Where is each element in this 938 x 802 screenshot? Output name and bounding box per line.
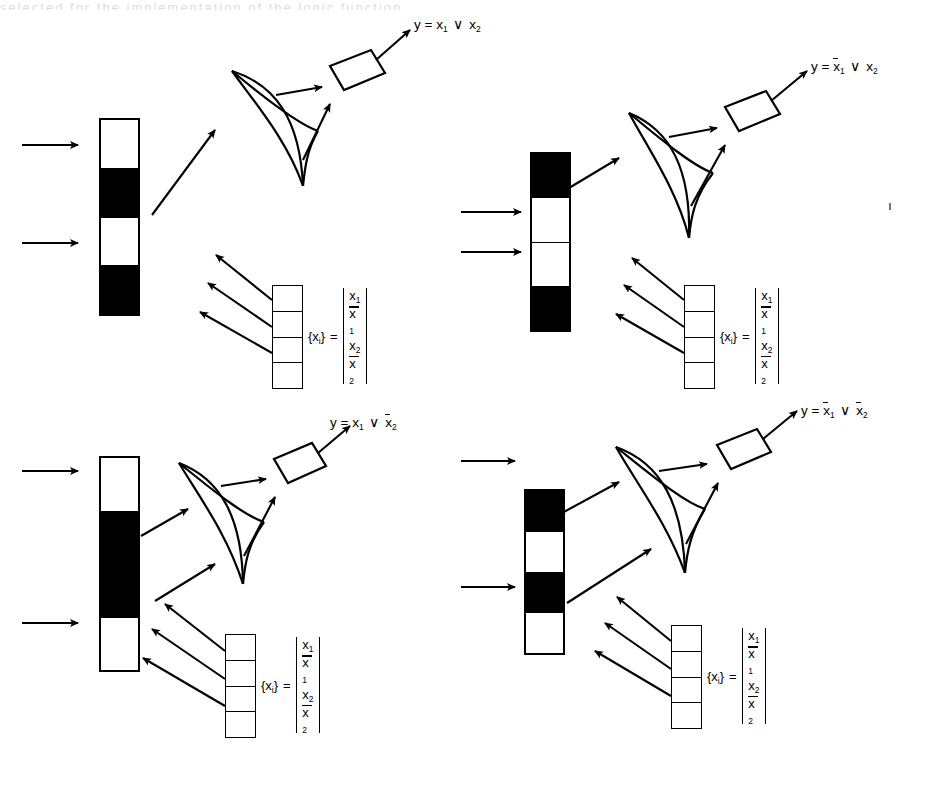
code-cell[interactable] [273, 362, 302, 388]
output-operand-2: x2 [856, 403, 867, 418]
panel-bottom-left: {xi} = x1x1x2x2 y = x1 ∨ x2 [0, 401, 469, 802]
vector-entry: x2 [761, 357, 772, 383]
vector-entries: x1x1x2x2 [344, 288, 365, 384]
legend-vector: x1x1x2x2 [755, 288, 779, 384]
register-to-lens-beam [569, 158, 619, 188]
code-cell[interactable] [226, 711, 255, 737]
input-beams [22, 471, 78, 623]
code-register[interactable] [671, 625, 702, 729]
output-operand-2: x2 [385, 415, 396, 430]
code-register[interactable] [272, 285, 303, 389]
register-cell[interactable] [532, 197, 569, 241]
vector-entry: x1 [761, 307, 772, 333]
legend-equation: {xi} = x1x1x2x2 [261, 637, 320, 733]
vector-entry: x2 [349, 339, 360, 352]
code-beams [616, 258, 684, 353]
output-equals: = [341, 415, 349, 430]
code-register[interactable] [684, 285, 715, 389]
code-register[interactable] [225, 634, 256, 738]
output-operand-1: x1 [436, 17, 447, 32]
code-beams [595, 597, 671, 696]
input-register[interactable] [524, 489, 565, 655]
figure-canvas: selected for the implementation of the l… [0, 0, 938, 802]
register-cell[interactable] [532, 242, 569, 286]
code-beams [200, 255, 272, 353]
output-prefix: y [414, 17, 421, 32]
register-cell[interactable] [526, 612, 563, 653]
legend-set-label: {xi} [720, 329, 737, 344]
register-cell[interactable] [101, 458, 138, 511]
panel-top-left: {xi} = x1x1x2x2 y = x1 ∨ x2 [0, 0, 469, 401]
register-cell[interactable] [101, 617, 138, 671]
code-cell[interactable] [273, 311, 302, 337]
code-cell[interactable] [685, 362, 714, 388]
vector-entry: x2 [748, 697, 759, 723]
output-operator: ∨ [451, 16, 465, 32]
vector-entries: x1x1x2x2 [743, 628, 764, 724]
input-register[interactable] [530, 152, 571, 332]
output-operand-1: x1 [352, 415, 363, 430]
register-cell[interactable] [526, 491, 563, 531]
code-cell[interactable] [672, 651, 701, 677]
vector-entry: x1 [302, 656, 313, 682]
legend-equals: = [742, 329, 750, 344]
output-beam [318, 426, 350, 453]
register-cell[interactable] [532, 286, 569, 330]
input-register[interactable] [99, 456, 140, 672]
output-operator: ∨ [838, 402, 852, 418]
legend-equals: = [330, 329, 338, 344]
register-cell[interactable] [526, 572, 563, 613]
panel-top-right: {xi} = x1x1x2x2 y = x1 ∨ x2 [469, 0, 938, 401]
vector-entry: x1 [761, 289, 772, 302]
output-beam [763, 411, 797, 439]
register-cell[interactable] [526, 531, 563, 572]
vector-entries: x1x1x2x2 [297, 637, 318, 733]
vector-entry: x2 [761, 339, 772, 352]
vector-bar-right [778, 288, 780, 384]
legend-equals: = [283, 678, 291, 693]
code-cell[interactable] [672, 702, 701, 728]
register-cell[interactable] [101, 511, 138, 565]
register-cell[interactable] [532, 154, 569, 197]
code-cell[interactable] [273, 286, 302, 311]
code-cell[interactable] [226, 635, 255, 660]
vector-entry: x2 [748, 679, 759, 692]
register-cell[interactable] [101, 265, 138, 314]
code-cell[interactable] [273, 337, 302, 363]
legend-set-label: {xi} [261, 678, 278, 693]
output-label: y = x1 ∨ x2 [801, 402, 868, 418]
input-register[interactable] [99, 118, 140, 316]
code-cell[interactable] [685, 286, 714, 311]
code-cell[interactable] [672, 626, 701, 651]
detector-rectangle [717, 429, 771, 469]
legend-vector: x1x1x2x2 [742, 628, 766, 724]
code-cell[interactable] [685, 311, 714, 337]
output-operand-1: x1 [823, 403, 834, 418]
register-cell[interactable] [101, 564, 138, 617]
input-beams [461, 212, 521, 252]
legend-vector: x1x1x2x2 [296, 637, 320, 733]
legend-set-label: {xi} [707, 669, 724, 684]
register-cell[interactable] [101, 217, 138, 266]
vector-entry: x2 [349, 357, 360, 383]
panel-1-vectors [0, 0, 469, 401]
code-beams [143, 604, 225, 706]
output-operand-1: x1 [833, 59, 844, 74]
vector-bar-right [319, 637, 321, 733]
output-beam [376, 30, 410, 60]
vector-bar-right [366, 288, 368, 384]
register-cell[interactable] [101, 168, 138, 217]
code-cell[interactable] [226, 660, 255, 686]
vector-entry: x1 [748, 629, 759, 642]
vector-entry: x1 [349, 307, 360, 333]
code-cell[interactable] [226, 686, 255, 712]
output-label: y = x1 ∨ x2 [811, 58, 878, 74]
code-cell[interactable] [685, 337, 714, 363]
register-cell[interactable] [101, 120, 138, 168]
detector-rectangle [330, 50, 385, 90]
vector-entry: x1 [302, 638, 313, 651]
input-beams [22, 145, 78, 243]
legend-equation: {xi} = x1x1x2x2 [308, 288, 367, 384]
output-equals: = [425, 17, 433, 32]
code-cell[interactable] [672, 677, 701, 703]
